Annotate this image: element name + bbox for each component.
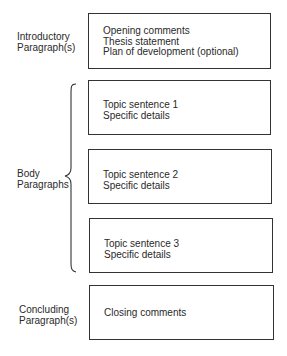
line-specific-details: Specific details xyxy=(103,181,178,192)
line-plan-of-development: Plan of development (optional) xyxy=(103,47,239,58)
line-closing-comments: Closing comments xyxy=(104,308,186,319)
box-text: Topic sentence 2 Specific details xyxy=(103,170,178,191)
label-introductory: Introductory Paragraph(s) xyxy=(17,31,75,53)
label-body: Body Paragraphs xyxy=(17,168,69,190)
label-line: Paragraph(s) xyxy=(17,42,75,53)
box-body-3: Topic sentence 3 Specific details xyxy=(89,218,273,273)
label-concluding: Concluding Paragraph(s) xyxy=(19,304,77,326)
box-conclusion: Closing comments xyxy=(89,285,274,340)
box-body-1: Topic sentence 1 Specific details xyxy=(88,80,271,135)
line-specific-details: Specific details xyxy=(103,111,178,122)
line-topic-sentence: Topic sentence 3 xyxy=(104,239,179,250)
label-line: Paragraph(s) xyxy=(19,315,77,326)
line-opening-comments: Opening comments xyxy=(103,26,239,37)
box-text: Topic sentence 1 Specific details xyxy=(103,100,178,121)
box-text: Opening comments Thesis statement Plan o… xyxy=(103,26,239,58)
line-topic-sentence: Topic sentence 1 xyxy=(103,100,178,111)
label-line: Introductory xyxy=(17,31,75,42)
box-text: Closing comments xyxy=(104,308,186,319)
line-specific-details: Specific details xyxy=(104,250,179,261)
label-line: Paragraphs xyxy=(17,179,69,190)
box-introduction: Opening comments Thesis statement Plan o… xyxy=(88,13,271,69)
label-line: Body xyxy=(17,168,69,179)
box-body-2: Topic sentence 2 Specific details xyxy=(88,149,272,204)
box-text: Topic sentence 3 Specific details xyxy=(104,239,179,260)
label-line: Concluding xyxy=(19,304,77,315)
line-topic-sentence: Topic sentence 2 xyxy=(103,170,178,181)
